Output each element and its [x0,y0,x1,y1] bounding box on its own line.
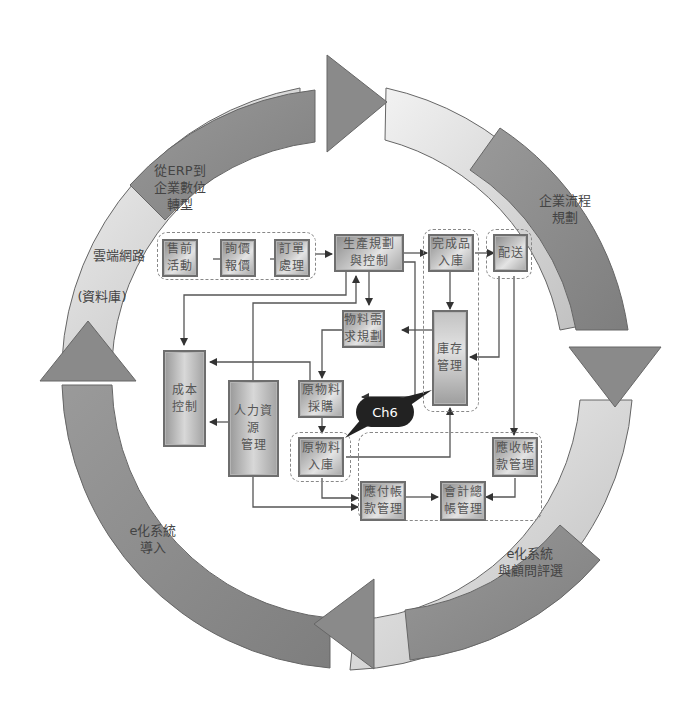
ring-arrowhead-top [327,55,387,152]
ring-label-cloud-network: 雲端網路 [84,247,154,264]
ring-arrowhead-left [40,321,136,381]
node-accounts-payable[interactable]: 應付帳 款管理 [360,481,406,521]
ring-label-system-evaluation: e化系統 與顧問評選 [480,545,580,579]
node-general-ledger[interactable]: 會計總 帳管理 [440,481,486,521]
ring-label-system-implementation: e化系統 導入 [118,522,188,556]
ring-arrowhead-right [569,347,661,407]
node-inventory[interactable]: 庫存 管理 [432,310,468,406]
node-finished-goods[interactable]: 完成品 入庫 [428,234,474,272]
node-presales[interactable]: 售前 活動 [162,239,198,277]
ring-label-digital-transformation: 從ERP到 企業數位 轉型 [140,162,220,213]
diagram-graphics [0,0,692,719]
node-order[interactable]: 訂單 處理 [274,239,310,277]
node-production[interactable]: 生產規劃 與控制 [334,234,404,272]
node-raw-receiving[interactable]: 原物料 入庫 [298,437,344,477]
node-mrp[interactable]: 物料需 求規劃 [342,310,385,348]
node-hr[interactable]: 人力資源 管理 [228,380,279,477]
node-delivery[interactable]: 配送 [493,234,528,272]
ring-label-database: (資料庫) [72,288,132,305]
node-cost-control[interactable]: 成本 控制 [163,350,206,447]
erp-cycle-diagram: 售前 活動 詢價 報價 訂單 處理 生產規劃 與控制 完成品 入庫 配送 物料需… [0,0,692,719]
node-accounts-receivable[interactable]: 應收帳 款管理 [492,437,538,477]
node-quotation[interactable]: 詢價 報價 [220,239,256,277]
ring-label-process-planning: 企業流程 規劃 [530,192,600,226]
node-purchasing[interactable]: 原物料 採購 [298,380,344,418]
chapter-callout: Ch6 [356,397,414,427]
